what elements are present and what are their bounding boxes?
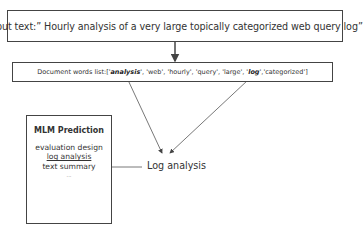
mlm-prediction-title: MLM Prediction bbox=[27, 126, 111, 136]
prediction-item-selected: log analysis bbox=[27, 152, 111, 162]
prediction-item: text summary bbox=[27, 162, 111, 172]
mlm-prediction-box: MLM Prediction evaluation design log ana… bbox=[26, 115, 112, 224]
words-list-text: Document words list:['analysis', 'web', … bbox=[37, 68, 307, 76]
word-item: hourly bbox=[169, 68, 190, 76]
word-item: query bbox=[197, 68, 216, 76]
arrow-log-to-result bbox=[170, 80, 248, 153]
word-item: analysis bbox=[110, 68, 140, 76]
prediction-item-ellipsis: ... bbox=[27, 171, 111, 181]
input-text-box: Input text:” Hourly analysis of a very l… bbox=[7, 10, 343, 42]
input-text: Input text:” Hourly analysis of a very l… bbox=[0, 21, 363, 32]
arrow-analysis-to-result bbox=[128, 80, 162, 153]
prediction-item: evaluation design bbox=[27, 143, 111, 153]
word-item: large bbox=[224, 68, 240, 76]
word-item: web bbox=[148, 68, 161, 76]
result-label: Log analysis bbox=[147, 160, 206, 171]
document-words-list-box: Document words list:['analysis', 'web', … bbox=[12, 62, 333, 82]
word-item: categorized bbox=[265, 68, 303, 76]
word-item: log bbox=[248, 68, 259, 76]
